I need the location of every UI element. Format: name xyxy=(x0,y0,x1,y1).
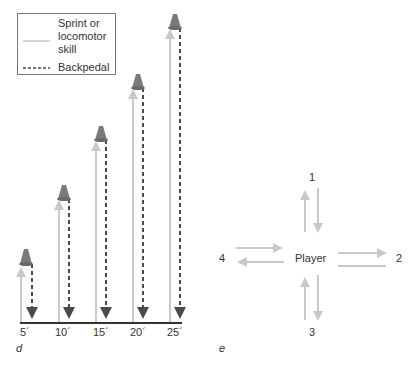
distance-label-25: 25´ xyxy=(167,326,183,338)
distance-label-5: 5´ xyxy=(20,326,30,338)
drill-5ft xyxy=(19,249,33,322)
cone-icon xyxy=(169,14,181,28)
panel-letter-d: d xyxy=(16,342,22,354)
position-label-1: 1 xyxy=(309,171,315,183)
player-label: Player xyxy=(295,252,326,264)
cone-icon xyxy=(58,185,70,199)
legend-sprint-label-line1: Sprint or xyxy=(58,17,100,30)
drill-20ft xyxy=(131,74,145,322)
panel-letter-e: e xyxy=(219,342,225,354)
legend-sprint-label-line2: locomotor xyxy=(58,30,106,43)
cone-icon xyxy=(20,249,32,264)
legend-backpedal-label: Backpedal xyxy=(58,61,109,74)
drill-15ft xyxy=(94,126,108,322)
distance-label-20: 20´ xyxy=(130,326,146,338)
distance-label-15: 15´ xyxy=(93,326,109,338)
drill-25ft xyxy=(168,14,182,322)
legend-sprint-label-line3: skill xyxy=(58,43,76,56)
drill-10ft xyxy=(57,185,71,322)
cone-icon xyxy=(95,126,107,140)
position-label-3: 3 xyxy=(309,326,315,338)
position-label-2: 2 xyxy=(396,252,402,264)
distance-label-10: 10´ xyxy=(55,326,71,338)
position-label-4: 4 xyxy=(219,252,225,264)
cone-icon xyxy=(132,74,144,88)
